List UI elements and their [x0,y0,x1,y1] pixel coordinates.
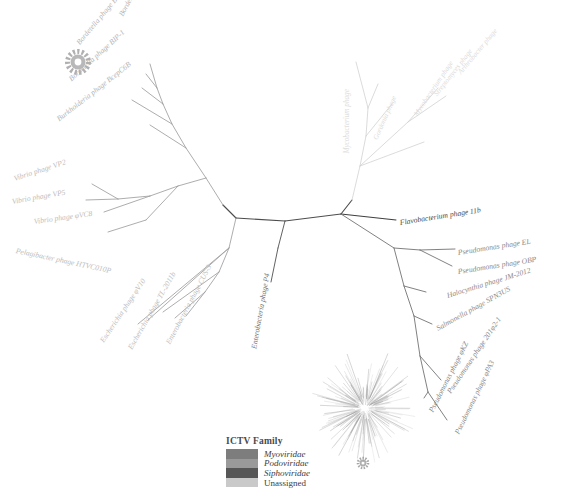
inset-branch [368,411,395,434]
legend-title: ICTV Family [226,436,310,446]
legend-label: Podoviridae [264,458,309,468]
legend-item[interactable]: Unassigned [226,478,310,488]
inset-branch [323,409,353,416]
inset-branch [349,419,361,453]
inset-branch [356,416,362,434]
legend-swatch [226,449,258,459]
legend-swatch [226,468,258,478]
inset-branch [367,369,380,402]
inset-branch [332,413,360,448]
legend-swatch [226,459,258,469]
inset-branch [328,411,358,422]
inset-branch [369,410,413,429]
legend-item[interactable]: Siphoviridae [226,468,310,478]
inset-branch [366,413,371,444]
inset-branch [376,409,386,410]
inset-branch [369,409,409,410]
figure-canvas: Bordetella phage BMP-1Bordetella phage B… [0,0,564,496]
inset-branch [369,410,405,429]
legend-label: Unassigned [264,478,306,488]
legend-swatch [226,478,258,488]
legend-rows: MyoviridaePodoviridaeSiphoviridaeUnassig… [226,449,310,487]
legend-item[interactable]: Podoviridae [226,459,310,469]
legend-label: Siphoviridae [264,468,310,478]
legend-label: Myoviridae [264,449,305,459]
legend: ICTV Family MyoviridaePodoviridaeSiphovi… [226,436,310,487]
legend-item[interactable]: Myoviridae [226,449,310,459]
inset-radial-tree [0,0,564,496]
